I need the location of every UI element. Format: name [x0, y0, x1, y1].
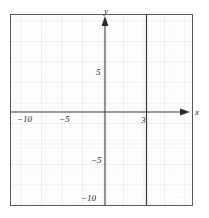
- y-tick-label-neg-five: −5: [91, 155, 102, 165]
- y-axis-label: y: [103, 6, 108, 16]
- coordinate-plane-svg: −10 −5 3 5 −5 −10 y x: [0, 0, 209, 218]
- grid-lines: [4, 8, 200, 213]
- x-tick-label-neg-five: −5: [59, 114, 70, 124]
- y-tick-label-five: 5: [96, 67, 101, 77]
- x-tick-label-neg-ten: −10: [17, 114, 33, 124]
- y-tick-label-neg-ten: −10: [81, 193, 97, 203]
- graph-figure: −10 −5 3 5 −5 −10 y x: [0, 0, 209, 218]
- x-tick-label-three: 3: [140, 115, 146, 125]
- x-axis-label: x: [194, 107, 199, 117]
